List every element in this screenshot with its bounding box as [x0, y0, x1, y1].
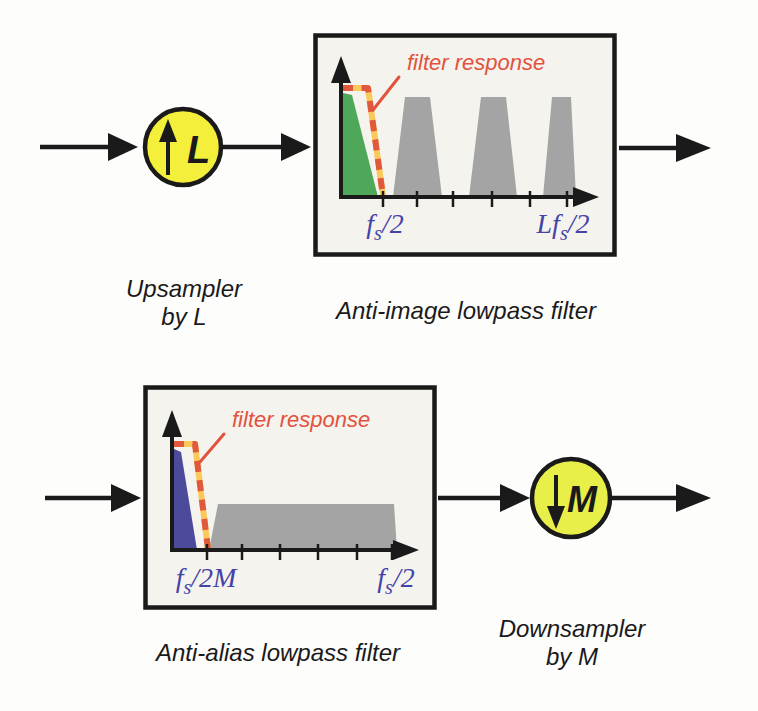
upsampler-caption-line1: Upsampler: [126, 275, 243, 302]
filter-response-label: filter response: [232, 407, 370, 432]
filter-response-label: filter response: [407, 50, 545, 75]
flow-arrow-bottom-output: [612, 484, 711, 512]
downsampler-factor: M: [567, 479, 598, 520]
downsampler-caption-line1: Downsampler: [499, 615, 647, 642]
bottom-row: filter response fs/2M fs/2 M Anti-alias …: [45, 388, 711, 671]
arrowhead: [111, 484, 141, 512]
upsampler-caption-line2: by L: [161, 303, 206, 330]
stopband-spectrum: [209, 504, 397, 550]
flow-arrow-bottom-input: [45, 484, 141, 512]
arrowhead: [500, 484, 530, 512]
flow-arrow-top-input: [40, 133, 138, 161]
anti-image-filter-caption: Anti-image lowpass filter: [334, 297, 597, 324]
flow-arrow-top-output: [619, 134, 711, 162]
axis-label-fs2: fs/2: [377, 562, 414, 598]
downsampler-node: M: [532, 459, 610, 537]
downsampler-caption-line2: by M: [546, 643, 598, 670]
anti-alias-filter-box: filter response fs/2M fs/2: [146, 388, 435, 608]
flow-arrow-bottom-middle: [438, 484, 530, 512]
arrowhead: [281, 133, 311, 161]
upsampler-factor: L: [187, 129, 210, 171]
diagram-svg: L: [0, 0, 758, 711]
arrowhead: [676, 134, 711, 162]
anti-alias-filter-caption: Anti-alias lowpass filter: [154, 639, 401, 666]
flow-arrow-top-middle: [222, 133, 311, 161]
top-row: L: [40, 36, 711, 331]
upsampler-node: L: [145, 109, 221, 185]
multirate-diagram: L: [0, 0, 758, 711]
axis-label-fs2: fs/2: [366, 208, 403, 244]
anti-image-filter-box: filter response fs/2 Lfs/2: [316, 36, 615, 255]
arrowhead: [676, 484, 711, 512]
arrowhead: [108, 133, 138, 161]
